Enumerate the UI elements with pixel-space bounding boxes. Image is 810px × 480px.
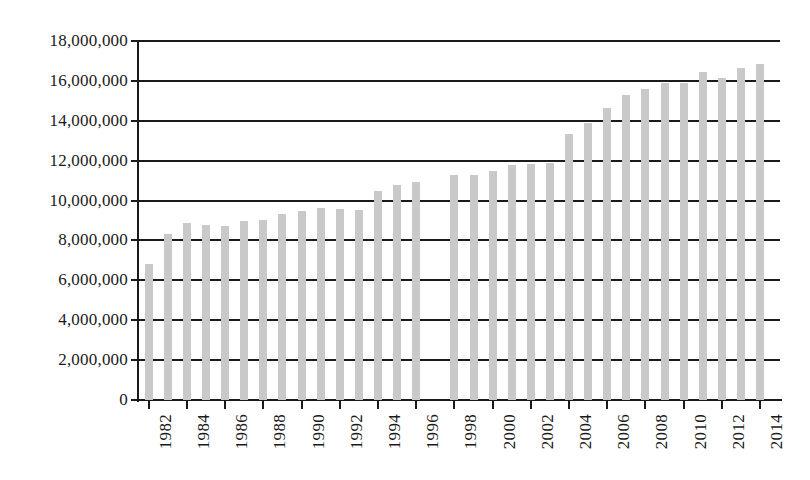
x-axis-tick-label: 2014: [767, 414, 787, 449]
x-axis-tick-label: 1992: [347, 414, 367, 449]
bar: [183, 223, 191, 401]
x-axis-tick-label: 1990: [309, 414, 329, 449]
bar: [508, 165, 516, 400]
x-axis-tick-mark: [492, 400, 494, 409]
x-axis-tick-mark: [568, 400, 570, 409]
bar: [527, 164, 535, 400]
x-axis-tick-label: 2012: [729, 414, 749, 449]
x-axis-tick-label: 2008: [652, 414, 672, 449]
bar-chart: 02,000,0004,000,0006,000,0008,000,00010,…: [0, 0, 810, 480]
x-axis-tick-mark: [186, 400, 188, 409]
bar: [336, 209, 344, 400]
bar: [393, 185, 401, 400]
bar: [699, 72, 707, 400]
x-axis-tick-label: 1984: [194, 414, 214, 449]
bar: [565, 134, 573, 400]
x-axis-tick-mark: [415, 400, 417, 409]
y-axis-label-group: 02,000,0004,000,0006,000,0008,000,00010,…: [0, 0, 128, 480]
x-axis-tick-label: 2006: [614, 414, 634, 449]
bar: [661, 83, 669, 400]
x-axis-tick-label: 1986: [232, 414, 252, 449]
y-axis-tick-label: 4,000,000: [58, 310, 128, 330]
y-axis-tick-label: 8,000,000: [58, 230, 128, 250]
bar: [317, 208, 325, 400]
y-axis-tick-mark: [131, 80, 139, 82]
x-axis-tick-label: 1982: [156, 414, 176, 449]
x-axis-tick-mark: [721, 400, 723, 409]
x-axis-tick-mark: [644, 400, 646, 409]
bar: [145, 264, 153, 400]
y-axis-tick-mark: [131, 200, 139, 202]
bar: [603, 108, 611, 400]
y-axis-tick-label: 14,000,000: [50, 111, 129, 131]
x-axis-tick-mark: [530, 400, 532, 409]
y-axis-tick-label: 2,000,000: [58, 350, 128, 370]
bar: [240, 221, 248, 401]
y-axis-tick-mark: [131, 279, 139, 281]
gridline: [139, 40, 780, 42]
bar: [412, 182, 420, 400]
y-axis-tick-label: 18,000,000: [50, 31, 129, 51]
bar: [584, 123, 592, 400]
bar: [546, 163, 554, 400]
bar: [278, 214, 286, 400]
plot-area: [139, 41, 780, 400]
x-axis-tick-mark: [339, 400, 341, 409]
bar: [489, 171, 497, 400]
x-axis-tick-mark: [759, 400, 761, 409]
bar: [259, 220, 267, 400]
y-axis-tick-label: 10,000,000: [50, 191, 129, 211]
x-axis-tick-label: 1996: [423, 414, 443, 449]
x-axis-tick-mark: [148, 400, 150, 409]
y-axis-tick-mark: [131, 319, 139, 321]
y-axis-tick-label: 6,000,000: [58, 270, 128, 290]
bar: [737, 68, 745, 400]
x-axis-tick-label: 2010: [691, 414, 711, 449]
gridline: [139, 80, 780, 82]
x-axis-tick-mark: [683, 400, 685, 409]
bar: [298, 211, 306, 400]
bar: [641, 89, 649, 400]
x-axis-tick-label: 2004: [576, 414, 596, 449]
bar: [756, 64, 764, 400]
y-axis-tick-mark: [131, 160, 139, 162]
x-axis-tick-mark: [453, 400, 455, 409]
x-axis-tick-mark: [262, 400, 264, 409]
x-axis-tick-label: 1998: [461, 414, 481, 449]
y-axis-tick-label: 16,000,000: [50, 71, 129, 91]
y-axis-tick-mark: [131, 40, 139, 42]
bar: [202, 225, 210, 401]
x-axis-tick-mark: [606, 400, 608, 409]
x-axis-tick-mark: [224, 400, 226, 409]
x-axis-tick-label: 2002: [538, 414, 558, 449]
bar: [470, 175, 478, 400]
y-axis-tick-mark: [131, 399, 139, 401]
bar: [374, 191, 382, 400]
x-axis-tick-label: 2000: [500, 414, 520, 449]
x-axis-tick-mark: [301, 400, 303, 409]
bar: [718, 78, 726, 400]
y-axis-tick-mark: [131, 359, 139, 361]
x-axis-tick-mark: [377, 400, 379, 409]
y-axis-tick-mark: [131, 120, 139, 122]
x-axis-tick-label: 1988: [270, 414, 290, 449]
x-axis-tick-label: 1994: [385, 414, 405, 449]
bar: [221, 226, 229, 401]
y-axis-tick-mark: [131, 239, 139, 241]
y-axis-tick-label: 0: [119, 390, 128, 410]
bar: [680, 83, 688, 400]
bar: [450, 175, 458, 400]
bar: [355, 210, 363, 400]
y-axis-tick-label: 12,000,000: [50, 151, 129, 171]
bar: [164, 234, 172, 400]
bar: [622, 95, 630, 400]
